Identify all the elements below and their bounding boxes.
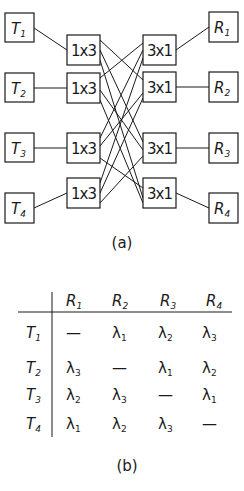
svg-text:R2: R2 — [112, 292, 128, 311]
table-row: T4 λ1 λ2 λ3 — — [26, 415, 217, 434]
svg-text:T4: T4 — [26, 415, 41, 434]
receiver-r4: R4 — [209, 193, 238, 223]
svg-text:—: — — [66, 324, 81, 342]
combiner-3: 3x1 — [143, 133, 176, 163]
svg-text:R1: R1 — [66, 292, 82, 311]
svg-text:1x3: 1x3 — [71, 140, 97, 158]
svg-text:1x3: 1x3 — [71, 185, 97, 203]
svg-text:—: — — [112, 359, 127, 377]
table-row: T3 λ2 λ3 — λ1 — [26, 386, 217, 405]
svg-text:R3: R3 — [160, 292, 176, 311]
svg-text:λ2: λ2 — [112, 415, 127, 434]
receiver-r2: R2 — [209, 72, 238, 102]
combiner-1: 3x1 — [143, 35, 176, 65]
svg-text:3x1: 3x1 — [147, 42, 173, 60]
splitter-2: 1x3 — [67, 73, 100, 103]
combiner-4: 3x1 — [143, 178, 176, 208]
svg-text:1x3: 1x3 — [71, 42, 97, 60]
transmitter-t4: T4 — [5, 193, 34, 223]
combiner-2: 3x1 — [143, 72, 176, 102]
output-wires — [176, 27, 209, 208]
receiver-r1: R1 — [209, 12, 238, 42]
svg-text:3x1: 3x1 — [147, 185, 173, 203]
svg-text:R4: R4 — [206, 292, 222, 311]
svg-text:λ2: λ2 — [202, 359, 217, 378]
svg-text:λ3: λ3 — [66, 359, 81, 378]
splitter-3: 1x3 — [67, 133, 100, 163]
transmitter-t2: T2 — [5, 73, 34, 102]
svg-text:3x1: 3x1 — [147, 140, 173, 158]
svg-text:λ1: λ1 — [112, 324, 127, 343]
svg-text:λ1: λ1 — [66, 415, 81, 434]
caption-b: (b) — [116, 457, 137, 475]
svg-text:T3: T3 — [26, 386, 41, 405]
svg-text:—: — — [202, 415, 217, 433]
table-row: T1 — λ1 λ2 λ3 — [26, 324, 217, 343]
svg-text:λ3: λ3 — [202, 324, 217, 343]
transmitter-t1: T1 — [5, 13, 34, 42]
svg-text:λ3: λ3 — [158, 415, 173, 434]
svg-text:—: — — [158, 386, 173, 404]
figure-canvas: T1 T2 T3 T4 1x3 1x3 1x3 1x3 3x1 3x1 3x1 — [0, 0, 244, 491]
table-row: T2 λ3 — λ1 λ2 — [26, 359, 217, 378]
input-wires — [34, 28, 67, 208]
svg-text:T2: T2 — [26, 359, 41, 378]
receiver-r3: R3 — [209, 133, 238, 163]
transmitter-t3: T3 — [5, 133, 34, 162]
splitter-1: 1x3 — [67, 35, 100, 65]
crossconnect-mesh — [100, 40, 143, 203]
svg-text:3x1: 3x1 — [147, 79, 173, 97]
wavelength-table: R1 R2 R3 R4 T1 — λ1 λ2 λ3 T2 λ3 — λ1 λ2 … — [18, 292, 232, 437]
svg-text:1x3: 1x3 — [71, 80, 97, 98]
svg-text:λ2: λ2 — [158, 324, 173, 343]
svg-text:λ3: λ3 — [112, 386, 127, 405]
svg-text:λ1: λ1 — [202, 386, 217, 405]
svg-text:λ2: λ2 — [66, 386, 81, 405]
splitter-4: 1x3 — [67, 178, 100, 208]
svg-text:T1: T1 — [26, 324, 41, 343]
table-header: R1 R2 R3 R4 — [66, 292, 222, 311]
svg-text:λ1: λ1 — [158, 359, 173, 378]
caption-a: (a) — [112, 234, 133, 252]
